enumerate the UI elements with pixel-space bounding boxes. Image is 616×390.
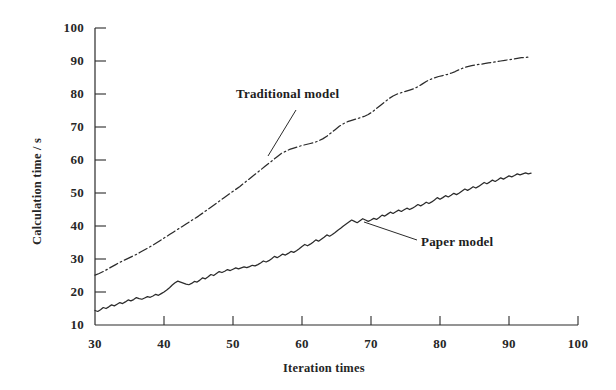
y-axis-tick-label: 100: [48, 20, 84, 36]
y-axis-tick-label: 20: [48, 284, 84, 300]
x-axis-tick-label: 100: [568, 336, 588, 352]
x-axis-tick-label: 30: [88, 336, 102, 352]
x-axis-tick-label: 70: [364, 336, 378, 352]
chart-plot-area: [0, 0, 616, 390]
y-axis-tick-label: 80: [48, 86, 84, 102]
paper-model-annotation: Paper model: [421, 234, 493, 250]
traditional-model-annotation: Traditional model: [236, 86, 339, 102]
x-axis-title: Iteration times: [283, 361, 365, 376]
chart-figure: 100908070605040302010 30405060708090100 …: [0, 0, 616, 390]
x-axis-tick-label: 40: [157, 336, 171, 352]
y-axis-ticks: [95, 28, 106, 292]
y-axis-tick-label: 70: [48, 119, 84, 135]
y-axis-tick-label: 50: [48, 185, 84, 201]
y-axis-title: Calculation time / s: [30, 138, 45, 245]
y-axis-tick-label: 30: [48, 251, 84, 267]
y-axis-tick-label: 90: [48, 53, 84, 69]
y-axis-tick-label: 60: [48, 152, 84, 168]
y-axis-tick-label: 10: [48, 317, 84, 333]
x-axis-tick-label: 90: [502, 336, 516, 352]
paper-model-leader-line: [364, 222, 417, 240]
x-axis-tick-label: 80: [433, 336, 447, 352]
y-axis-tick-label: 40: [48, 218, 84, 234]
x-axis-ticks: [164, 316, 578, 325]
x-axis-tick-label: 50: [226, 336, 240, 352]
x-axis-tick-label: 60: [295, 336, 309, 352]
